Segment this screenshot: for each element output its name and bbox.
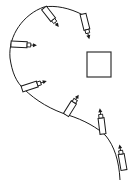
trajectory-curve (10, 6, 120, 180)
tool-1-pen-icon (42, 6, 62, 29)
tool-5-pen-icon (63, 93, 81, 117)
tool-2-pen-icon (80, 13, 92, 40)
square-target (87, 52, 111, 77)
tool-3-pen-icon (11, 41, 37, 48)
tool-6-pen-icon (97, 108, 106, 135)
diagram-canvas (0, 0, 134, 182)
tool-4-pen-icon (21, 78, 48, 92)
diagram-svg (0, 0, 134, 182)
tool-group (11, 6, 127, 170)
